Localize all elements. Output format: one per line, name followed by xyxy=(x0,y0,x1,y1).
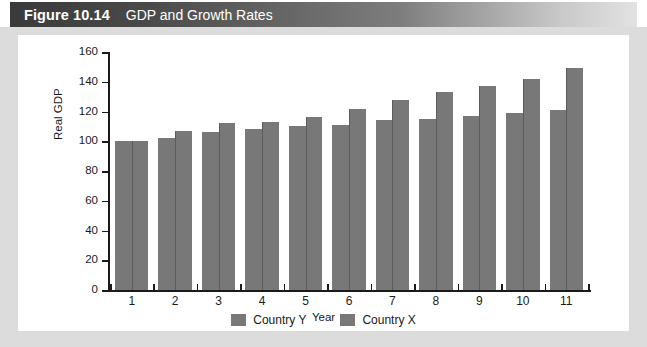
y-axis-tick-label: 120 xyxy=(58,105,98,117)
y-axis-tick-label: 20 xyxy=(58,253,98,265)
bar xyxy=(289,126,306,290)
x-axis-tick xyxy=(458,284,460,291)
figure-number: Figure 10.14 xyxy=(24,7,110,23)
bar xyxy=(349,109,366,290)
x-axis-tick xyxy=(197,284,199,291)
x-axis-tick-label: 3 xyxy=(199,294,239,308)
bar xyxy=(175,131,192,290)
bar xyxy=(436,92,453,290)
y-axis-tick-label: 140 xyxy=(58,75,98,87)
x-axis-tick xyxy=(371,284,373,291)
bar xyxy=(479,86,496,290)
bar xyxy=(419,119,436,290)
figure-container: Figure 10.14 GDP and Growth Rates 020406… xyxy=(0,0,647,347)
bar xyxy=(219,123,236,290)
bar xyxy=(376,120,393,290)
bars-plot-area xyxy=(110,52,588,290)
figure-title: GDP and Growth Rates xyxy=(126,7,273,23)
x-axis-line xyxy=(108,290,591,292)
x-axis-tick xyxy=(327,284,329,291)
legend-label: Country X xyxy=(362,313,415,327)
bar xyxy=(523,79,540,290)
y-axis-tick-label: 0 xyxy=(58,283,98,295)
x-axis-tick xyxy=(240,284,242,291)
x-axis-tick xyxy=(284,284,286,291)
x-axis-tick-label: 9 xyxy=(459,294,499,308)
bar xyxy=(392,100,409,290)
figure-title-bar: Figure 10.14 GDP and Growth Rates xyxy=(10,2,637,27)
x-axis-tick-label: 8 xyxy=(416,294,456,308)
y-axis-tick-label: 100 xyxy=(58,134,98,146)
bar xyxy=(550,110,567,290)
x-axis-tick xyxy=(588,284,590,291)
x-axis-tick-label: 5 xyxy=(286,294,326,308)
legend-item: Country Y xyxy=(231,313,306,327)
legend-label: Country Y xyxy=(253,313,306,327)
chart-legend: Country YCountry X xyxy=(0,313,647,327)
x-axis-tick xyxy=(153,284,155,291)
legend-item: Country X xyxy=(340,313,415,327)
x-axis-tick-label: 2 xyxy=(155,294,195,308)
legend-swatch-icon xyxy=(340,314,355,326)
y-axis-tick xyxy=(102,290,108,292)
x-axis-tick xyxy=(110,284,112,291)
y-axis-tick-label: 60 xyxy=(58,194,98,206)
y-axis-tick xyxy=(102,141,108,143)
x-axis-tick-label: 1 xyxy=(112,294,152,308)
y-axis-tick-label: 40 xyxy=(58,224,98,236)
bar xyxy=(245,129,262,290)
bar xyxy=(332,125,349,290)
x-axis-tick-label: 6 xyxy=(329,294,369,308)
bar xyxy=(566,68,583,290)
bar xyxy=(506,113,523,290)
y-axis-tick xyxy=(102,171,108,173)
y-axis-tick-label: 160 xyxy=(58,45,98,57)
x-axis-tick xyxy=(545,284,547,291)
y-axis-tick xyxy=(102,201,108,203)
bar xyxy=(202,132,219,290)
bar xyxy=(115,141,132,290)
x-axis-tick xyxy=(501,284,503,291)
y-axis-tick xyxy=(102,231,108,233)
bar xyxy=(463,116,480,290)
legend-swatch-icon xyxy=(231,314,246,326)
bar xyxy=(262,122,279,290)
x-axis-tick-label: 11 xyxy=(546,294,586,308)
bar xyxy=(158,138,175,290)
bar xyxy=(132,141,149,290)
y-axis-tick xyxy=(102,52,108,54)
y-axis-tick xyxy=(102,260,108,262)
y-axis-label: Real GDP xyxy=(52,88,64,140)
x-axis-tick-label: 4 xyxy=(242,294,282,308)
x-axis-tick xyxy=(414,284,416,291)
bar xyxy=(306,117,323,290)
y-axis-tick xyxy=(102,112,108,114)
x-axis-tick-label: 7 xyxy=(372,294,412,308)
y-axis-tick-label: 80 xyxy=(58,164,98,176)
x-axis-tick-label: 10 xyxy=(503,294,543,308)
y-axis-tick xyxy=(102,82,108,84)
